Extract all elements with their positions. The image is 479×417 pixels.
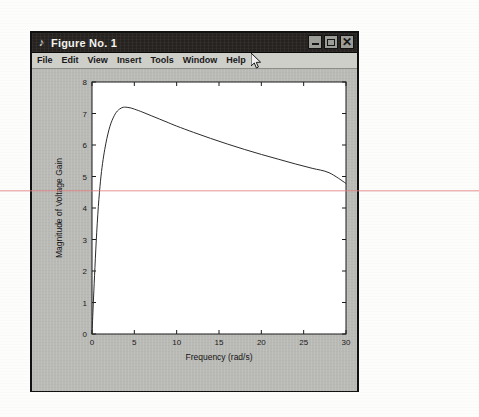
maximize-button[interactable]	[324, 35, 338, 49]
plot-area: 051015202530 012345678 Frequency (rad/s)…	[32, 69, 357, 391]
axes-background	[92, 82, 346, 334]
y-tick-label: 1	[83, 299, 88, 308]
x-tick-label: 30	[342, 338, 351, 347]
figure-note-icon: ♪	[36, 37, 47, 48]
menu-item-insert[interactable]: Insert	[117, 56, 142, 65]
y-tick-label: 2	[83, 267, 88, 276]
menu-item-tools[interactable]: Tools	[150, 56, 173, 65]
menu-item-edit[interactable]: Edit	[62, 56, 79, 65]
x-tick-label: 25	[299, 338, 308, 347]
window-controls: ✕	[308, 35, 354, 49]
menu-bar: File Edit View Insert Tools Window Help	[32, 53, 357, 69]
y-axis-label: Magnitude of Voltage Gain	[54, 158, 64, 258]
maximize-icon	[327, 39, 335, 46]
title-bar[interactable]: ♪ Figure No. 1 ✕	[32, 33, 357, 53]
x-tick-label: 15	[215, 338, 224, 347]
y-tick-label: 7	[83, 110, 88, 119]
y-tick-label: 3	[83, 236, 88, 245]
close-button[interactable]: ✕	[340, 35, 354, 49]
y-tick-label: 5	[83, 173, 88, 182]
y-tick-label: 8	[83, 78, 88, 87]
x-tick-label: 0	[90, 338, 95, 347]
window-title: Figure No. 1	[51, 37, 117, 49]
figure-window: ♪ Figure No. 1 ✕ File Edit View Insert T…	[30, 31, 359, 392]
y-tick-label: 0	[83, 330, 88, 339]
x-tick-label: 10	[172, 338, 181, 347]
figure-canvas[interactable]: 051015202530 012345678 Frequency (rad/s)…	[32, 69, 357, 391]
menu-item-view[interactable]: View	[88, 56, 108, 65]
x-tick-label: 5	[132, 338, 137, 347]
menu-item-file[interactable]: File	[37, 56, 53, 65]
y-tick-label: 4	[83, 204, 88, 213]
minimize-icon	[312, 43, 319, 45]
minimize-button[interactable]	[308, 35, 322, 49]
menu-item-window[interactable]: Window	[183, 56, 217, 65]
x-axis-label: Frequency (rad/s)	[185, 352, 252, 362]
y-tick-label: 6	[83, 141, 88, 150]
menu-item-help[interactable]: Help	[226, 56, 246, 65]
close-icon: ✕	[342, 36, 352, 48]
x-tick-label: 20	[257, 338, 266, 347]
